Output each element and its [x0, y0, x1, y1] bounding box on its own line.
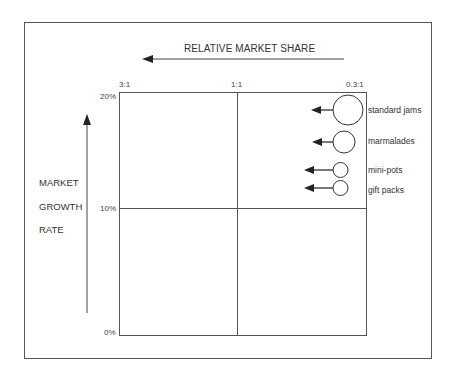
x-tick-3-1: 3:1	[119, 81, 130, 89]
y-axis-title-line-2: GROWTH	[39, 202, 82, 212]
bubble-mini-pots	[304, 163, 348, 178]
y-tick-0: 0%	[104, 329, 116, 337]
bubble-label-gift-packs: gift packs	[368, 186, 404, 195]
arrow-left-icon	[304, 184, 314, 192]
y-tick-20: 20%	[100, 93, 116, 101]
bubble-marmalades	[312, 131, 355, 153]
arrow-left-icon	[304, 166, 314, 174]
arrow-left-icon	[311, 106, 321, 114]
x-axis-title: RELATIVE MARKET SHARE	[184, 44, 315, 54]
bubble-label-marmalades: marmalades	[368, 137, 415, 146]
bubble-standard-jams	[311, 95, 363, 125]
x-tick-0-3-1: 0.3:1	[346, 81, 364, 89]
y-axis-arrow-icon	[83, 114, 91, 313]
bubble-gift-packs	[304, 181, 348, 196]
x-axis-arrow-icon	[142, 55, 344, 63]
x-tick-1-1: 1:1	[231, 81, 242, 89]
y-tick-10: 10%	[100, 205, 116, 213]
bubble-label-standard-jams: standard jams	[368, 106, 421, 115]
y-axis-title-line-1: MARKET	[39, 178, 79, 188]
matrix-box	[120, 93, 367, 336]
y-axis-title-line-3: RATE	[39, 225, 64, 235]
bubble-label-mini-pots: mini-pots	[368, 166, 402, 175]
arrow-left-icon	[312, 138, 322, 146]
